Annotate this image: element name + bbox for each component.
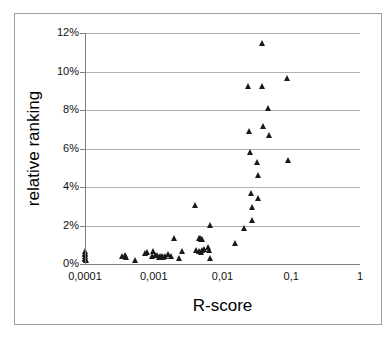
x-tick-label: 1 [357,271,363,282]
y-tick-label: 0% [63,258,79,269]
gridline-y [85,187,360,188]
x-tick-label: 0,001 [140,271,168,282]
y-tick-label: 12% [57,27,79,38]
data-point [199,236,205,242]
data-point [285,157,291,163]
gridline-y [85,264,360,265]
data-point [241,225,247,231]
x-axis-tick-labels: 0,00010,0010,010,11 [0,271,392,287]
data-point [179,248,185,254]
y-tick-label: 2% [63,220,79,231]
data-point [259,40,265,46]
data-point [249,204,255,210]
data-point [254,159,260,165]
data-point [176,255,182,261]
y-tick-label: 8% [63,104,79,115]
data-point [206,247,212,253]
x-axis-title: R-score [85,297,360,314]
data-point [207,222,213,228]
data-point [284,75,290,81]
data-point [247,149,253,155]
data-point [192,202,198,208]
y-axis-title: relative ranking [25,54,42,244]
data-point [249,217,255,223]
y-tick-mark [80,33,85,34]
data-point [248,190,254,196]
y-tick-label: 6% [63,143,79,154]
data-point [246,128,252,134]
y-tick-label: 4% [63,181,79,192]
y-axis-tick-labels: 0%2%4%6%8%10%12% [48,0,79,342]
gridline-y [85,149,360,150]
data-point [132,257,138,263]
data-point [168,253,174,259]
y-tick-mark [80,264,85,265]
data-point [123,254,129,260]
data-point [207,255,213,261]
gridline-y [85,33,360,34]
data-point [255,195,261,201]
gridline-y [85,110,360,111]
y-tick-mark [80,110,85,111]
x-tick-label: 0,0001 [68,271,102,282]
chart-figure: 0%2%4%6%8%10%12% 0,00010,0010,010,11 R-s… [0,0,392,342]
data-point [255,172,261,178]
y-tick-mark [80,72,85,73]
data-point [259,83,265,89]
x-tick-label: 0,01 [212,271,233,282]
y-tick-mark [80,149,85,150]
y-tick-mark [80,226,85,227]
gridline-y [85,226,360,227]
data-point [260,123,266,129]
gridline-y [85,72,360,73]
y-tick-mark [80,187,85,188]
data-point [245,83,251,89]
plot-area [85,33,360,264]
x-tick-label: 0,1 [284,271,299,282]
data-point [171,235,177,241]
data-point [265,105,271,111]
data-point [266,132,272,138]
data-point [232,240,238,246]
y-axis-line [85,33,86,265]
y-tick-label: 10% [57,66,79,77]
